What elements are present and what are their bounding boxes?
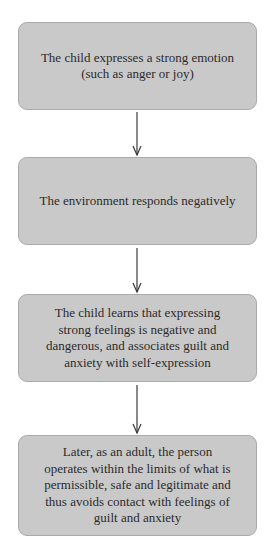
step-text: The child expresses a strong emotion (su… — [41, 50, 234, 83]
step-text-line: (such as anger or joy) — [41, 66, 234, 83]
step-text-line: thus avoids contact with feelings of — [44, 494, 231, 511]
step-text-line: permissible, safe and legitimate and — [44, 477, 231, 494]
flow-step-environment-responds: The environment responds negatively — [18, 157, 257, 245]
step-text: Later, as an adult, the person operates … — [44, 444, 231, 527]
flow-step-child-expresses-emotion: The child expresses a strong emotion (su… — [18, 22, 257, 110]
step-text-line: Later, as an adult, the person — [44, 444, 231, 461]
flow-step-child-learns: The child learns that expressing strong … — [18, 294, 257, 382]
step-text: The environment responds negatively — [39, 193, 235, 210]
step-text-line: The child expresses a strong emotion — [41, 50, 234, 67]
down-arrow-icon — [131, 385, 143, 435]
flow-step-adult-avoids-feelings: Later, as an adult, the person operates … — [18, 435, 257, 536]
step-text-line: strong feelings is negative and — [46, 322, 229, 339]
down-arrow-icon — [131, 248, 143, 294]
step-text-line: The child learns that expressing — [46, 305, 229, 322]
step-text-line: guilt and anxiety — [44, 510, 231, 527]
step-text-line: operates within the limits of what is — [44, 461, 231, 478]
step-text: The child learns that expressing strong … — [46, 305, 229, 371]
step-text-line: dangerous, and associates guilt and — [46, 338, 229, 355]
step-text-line: The environment responds negatively — [39, 193, 235, 210]
step-text-line: anxiety with self-expression — [46, 355, 229, 372]
down-arrow-icon — [131, 112, 143, 157]
